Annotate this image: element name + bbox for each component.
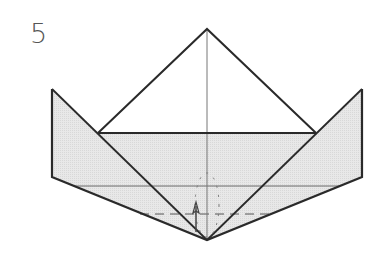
origami-diagram xyxy=(0,0,385,260)
